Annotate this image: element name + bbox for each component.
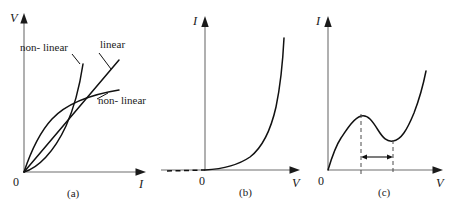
panel-c: I V 0 (c)	[297, 0, 451, 201]
panel-b: I V 0 (b)	[155, 0, 300, 201]
panel-b-y-axis-label: I	[192, 14, 198, 28]
panel-a-origin-label: 0	[13, 175, 19, 189]
panel-a-label-linear: linear	[100, 38, 125, 50]
panel-c-origin-label: 0	[318, 174, 324, 188]
figure-root: non- linear linear non- linear V I 0 (a)…	[0, 0, 451, 201]
panel-c-span-arrowhead-right	[387, 154, 393, 159]
panel-b-origin-label: 0	[199, 174, 205, 188]
panel-c-caption: (c)	[378, 186, 391, 199]
panel-b-caption: (b)	[239, 186, 252, 199]
panel-a-curve-linear	[24, 60, 119, 172]
panel-a-y-axis-label: V	[10, 11, 19, 25]
panel-a-y-axis-arrowhead	[20, 13, 27, 24]
panel-c-y-axis-label: I	[315, 14, 321, 28]
panel-c-curve-n-shaped	[328, 71, 426, 170]
panel-c-canvas: I V 0 (c)	[297, 0, 451, 201]
panel-a-label-nonlinear-right: non- linear	[98, 94, 146, 106]
panel-c-x-axis-arrowhead	[433, 166, 444, 173]
panel-a: non- linear linear non- linear V I 0 (a)	[0, 0, 155, 201]
panel-a-leader-linear	[99, 53, 111, 69]
panel-a-canvas: non- linear linear non- linear V I 0 (a)	[0, 0, 155, 201]
panel-a-x-axis-label: I	[138, 177, 144, 191]
panel-a-label-nonlinear-left: non- linear	[20, 41, 68, 53]
panel-a-leader-nonlinear-left	[72, 54, 80, 64]
panel-b-curve-exponential	[205, 38, 284, 170]
panel-c-span-arrowhead-left	[361, 154, 367, 159]
panel-a-x-axis-arrowhead	[136, 168, 147, 175]
panel-a-caption: (a)	[67, 187, 80, 200]
panel-b-y-axis-arrowhead	[201, 16, 208, 27]
panel-c-y-axis-arrowhead	[324, 16, 331, 27]
panel-b-canvas: I V 0 (b)	[155, 0, 300, 201]
panel-c-x-axis-label: V	[436, 176, 445, 190]
